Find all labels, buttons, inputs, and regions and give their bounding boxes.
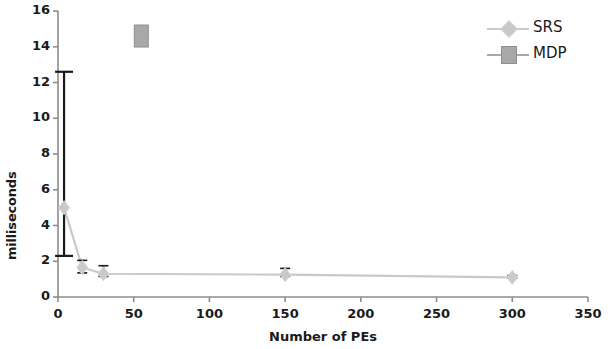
- data-point-mdp: [134, 25, 148, 47]
- data-point-srs: [280, 268, 291, 282]
- chart-figure: milliseconds Number of PEs 0246810121416…: [0, 0, 608, 349]
- data-point-srs: [59, 201, 70, 215]
- legend-label-srs: SRS: [533, 18, 562, 36]
- series-line-srs: [64, 208, 512, 278]
- legend-marker-square-icon: [501, 46, 517, 64]
- data-point-srs: [507, 270, 518, 284]
- legend-label-mdp: MDP: [533, 44, 567, 62]
- data-point-srs: [98, 267, 109, 281]
